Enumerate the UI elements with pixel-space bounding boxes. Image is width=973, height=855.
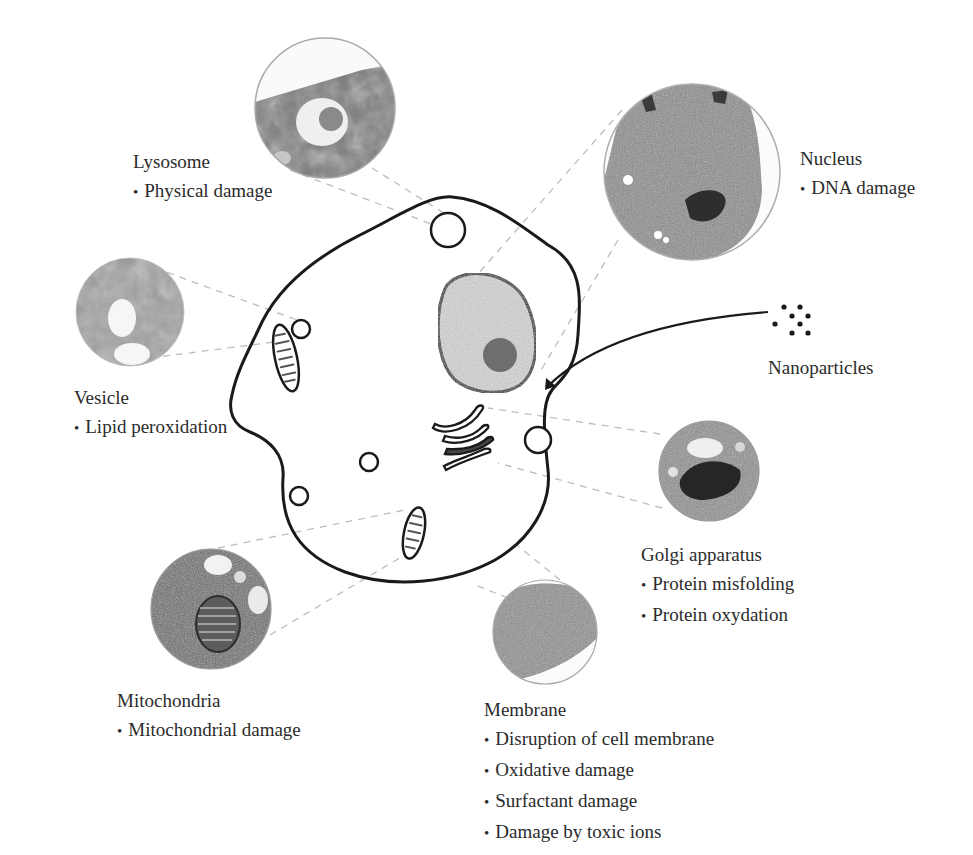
membrane-effect-1: Disruption of cell membrane bbox=[484, 724, 714, 755]
nanoparticle-dots bbox=[772, 304, 810, 335]
golgi-effect-1: Protein misfolding bbox=[641, 569, 794, 600]
lysosome-label: Lysosome Physical damage bbox=[133, 147, 272, 207]
cell-damage-diagram: Lysosome Physical damage Nucleus DNA dam… bbox=[0, 0, 973, 855]
lysosome-effect: Physical damage bbox=[133, 176, 272, 207]
mitochondrion-shape-2 bbox=[399, 505, 429, 560]
mitochondria-label: Mitochondria Mitochondrial damage bbox=[117, 686, 301, 746]
nucleus-label: Nucleus DNA damage bbox=[800, 144, 915, 204]
mitochondria-effect: Mitochondrial damage bbox=[117, 715, 301, 746]
vesicle-shape bbox=[292, 320, 310, 338]
lysosome-shape bbox=[431, 213, 465, 247]
golgi-effect-2: Protein oxydation bbox=[641, 600, 794, 631]
vesicle-shape-3 bbox=[290, 487, 308, 505]
membrane-effect-4: Damage by toxic ions bbox=[484, 817, 714, 848]
vesicle-shape-2 bbox=[360, 453, 378, 471]
membrane-effect-3: Surfactant damage bbox=[484, 786, 714, 817]
vesicle-micrograph bbox=[76, 258, 184, 366]
mitochondria-title: Mitochondria bbox=[117, 686, 301, 715]
membrane-title: Membrane bbox=[484, 695, 714, 724]
vesicle-effect: Lipid peroxidation bbox=[74, 412, 227, 443]
nucleus-shape bbox=[438, 274, 536, 393]
golgi-title: Golgi apparatus bbox=[641, 540, 794, 569]
membrane-label: Membrane Disruption of cell membrane Oxi… bbox=[484, 695, 714, 848]
golgi-label: Golgi apparatus Protein misfolding Prote… bbox=[641, 540, 794, 631]
vesicle-title: Vesicle bbox=[74, 383, 227, 412]
membrane-effect-2: Oxidative damage bbox=[484, 755, 714, 786]
vesicle-shape-4 bbox=[525, 427, 551, 453]
golgi-shape bbox=[433, 406, 493, 471]
mitochondria-micrograph bbox=[151, 549, 271, 669]
nanoparticles-label: Nanoparticles bbox=[768, 353, 874, 382]
lysosome-title: Lysosome bbox=[133, 147, 272, 176]
nucleus-title: Nucleus bbox=[800, 144, 915, 173]
vesicle-label: Vesicle Lipid peroxidation bbox=[74, 383, 227, 443]
nanoparticles-title: Nanoparticles bbox=[768, 353, 874, 382]
nucleus-effect: DNA damage bbox=[800, 173, 915, 204]
